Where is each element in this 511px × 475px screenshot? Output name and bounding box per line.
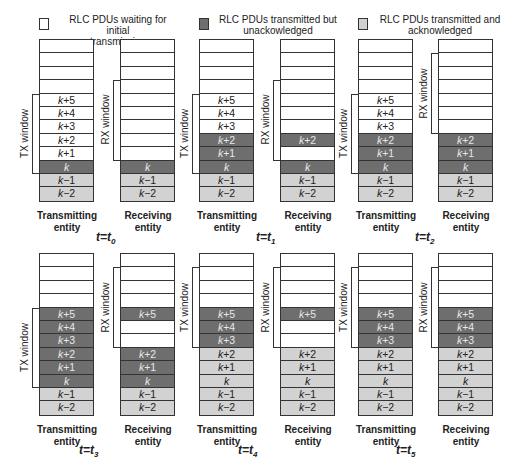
pdu-cell: [439, 107, 492, 120]
pdu-cell: [439, 294, 492, 307]
pdu-cell: [40, 267, 93, 280]
legend-swatch-waiting: [39, 18, 49, 30]
pdu-cell: k+2: [281, 348, 334, 361]
pdu-cell: [121, 334, 174, 347]
rx-stack-t2: k+2k+1kk−1k−2: [438, 39, 493, 202]
pdu-cell: [281, 267, 334, 280]
time-label-t2: t=t2: [415, 230, 434, 246]
pdu-cell: [439, 40, 492, 53]
pdu-cell: k+1: [200, 147, 253, 160]
pdu-cell: [121, 147, 174, 160]
pdu-cell: k: [439, 375, 492, 388]
pdu-cell: k−2: [281, 401, 334, 414]
pdu-cell: k: [200, 161, 253, 174]
pdu-cell: [281, 40, 334, 53]
tx-window-label: TX window: [338, 98, 349, 168]
pdu-cell: [200, 67, 253, 80]
pdu-cell: [121, 321, 174, 334]
pdu-cell: k−1: [200, 388, 253, 401]
rx-window-bracket: [431, 53, 438, 133]
tx-window-label: TX window: [19, 312, 30, 382]
receiving-entity-label: Receivingentity: [268, 210, 348, 234]
legend-label-unack: RLC PDUs transmitted but unackowledged: [218, 14, 338, 36]
pdu-cell: k−2: [40, 187, 93, 200]
rx-stack-t3: k+5k+2k+1kk−1k−2: [120, 253, 175, 416]
pdu-cell: [359, 281, 412, 294]
tx-window-label: TX window: [19, 98, 30, 168]
rx-window-label: RX window: [100, 85, 111, 155]
pdu-cell: k+1: [40, 147, 93, 160]
legend-label-ack: RLC PDUs transmitted and acknowledged: [375, 14, 505, 36]
pdu-cell: k−2: [439, 187, 492, 200]
pdu-cell: k+5: [359, 94, 412, 107]
pdu-cell: [281, 147, 334, 160]
pdu-cell: k+2: [439, 348, 492, 361]
rx-stack-t5: k+5k+4k+3k+2k+1kk−1k−2: [438, 253, 493, 416]
pdu-cell: k+1: [359, 147, 412, 160]
pdu-cell: [200, 40, 253, 53]
pdu-cell: [40, 254, 93, 267]
pdu-cell: [200, 281, 253, 294]
tx-stack-t5: k+5k+4k+3k+2k+1kk−1k−2: [358, 253, 413, 416]
pdu-cell: [439, 254, 492, 267]
rx-window-bracket: [273, 267, 280, 347]
pdu-cell: k+3: [200, 120, 253, 133]
pdu-cell: k+3: [359, 334, 412, 347]
pdu-cell: [40, 80, 93, 93]
pdu-cell: [281, 321, 334, 334]
pdu-cell: k+3: [40, 120, 93, 133]
pdu-cell: k−2: [200, 401, 253, 414]
pdu-cell: [121, 53, 174, 66]
tx-window-label: TX window: [179, 272, 190, 342]
pdu-cell: k+2: [359, 348, 412, 361]
pdu-cell: k−2: [121, 187, 174, 200]
rx-window-label: RX window: [100, 272, 111, 342]
pdu-cell: k+3: [200, 334, 253, 347]
tx-window-bracket: [351, 94, 358, 174]
rx-window-label: RX window: [418, 272, 429, 342]
pdu-cell: [359, 40, 412, 53]
tx-window-label: TX window: [179, 98, 190, 168]
pdu-cell: k: [121, 375, 174, 388]
pdu-cell: [281, 294, 334, 307]
tx-stack-t4: k+5k+4k+3k+2k+1kk−1k−2: [199, 253, 254, 416]
pdu-cell: k+4: [200, 321, 253, 334]
pdu-cell: [121, 281, 174, 294]
rx-window-label: RX window: [260, 272, 271, 342]
pdu-cell: [359, 254, 412, 267]
rx-stack-t1: k+2kk−1k−2: [280, 39, 335, 202]
tx-window-bracket: [351, 267, 358, 347]
rx-window-bracket: [113, 80, 120, 160]
pdu-cell: k+5: [200, 308, 253, 321]
pdu-cell: k+4: [359, 321, 412, 334]
pdu-cell: [439, 67, 492, 80]
pdu-cell: k+5: [200, 94, 253, 107]
rx-window-label: RX window: [418, 58, 429, 128]
pdu-cell: k+4: [200, 107, 253, 120]
pdu-cell: [281, 254, 334, 267]
pdu-cell: k−2: [40, 401, 93, 414]
legend-swatch-unack: [199, 18, 209, 30]
pdu-cell: k: [200, 375, 253, 388]
tx-stack-t0: k+5k+4k+3k+2k+1kk−1k−2: [39, 39, 94, 202]
pdu-cell: [121, 254, 174, 267]
pdu-cell: [121, 107, 174, 120]
pdu-cell: k+1: [40, 361, 93, 374]
tx-window-bracket: [192, 267, 199, 347]
transmitting-entity-label: Transmittingentity: [187, 210, 267, 234]
pdu-cell: k−2: [281, 187, 334, 200]
pdu-cell: k−2: [439, 401, 492, 414]
pdu-cell: k+4: [359, 107, 412, 120]
pdu-cell: [200, 294, 253, 307]
pdu-cell: k: [121, 161, 174, 174]
pdu-cell: k−1: [40, 388, 93, 401]
pdu-cell: k+5: [40, 308, 93, 321]
pdu-cell: [281, 67, 334, 80]
time-label-t3: t=t3: [79, 443, 98, 459]
pdu-cell: [281, 120, 334, 133]
pdu-cell: k+5: [121, 308, 174, 321]
pdu-cell: [281, 53, 334, 66]
pdu-cell: k−2: [200, 187, 253, 200]
pdu-cell: k: [359, 375, 412, 388]
pdu-cell: k+3: [40, 334, 93, 347]
